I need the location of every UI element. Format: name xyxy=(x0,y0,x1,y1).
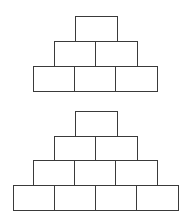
pyramid-box xyxy=(115,160,158,186)
pyramid-box xyxy=(75,111,118,137)
pyramid-box xyxy=(33,160,76,186)
pyramid-box xyxy=(54,41,97,67)
pyramid-box xyxy=(33,66,76,92)
pyramid-box xyxy=(75,16,118,42)
pyramid-box xyxy=(74,160,117,186)
pyramid-box xyxy=(54,185,97,211)
pyramid-box xyxy=(95,136,138,162)
pyramid-box xyxy=(54,136,97,162)
pyramid-box xyxy=(136,185,179,211)
pyramid-box xyxy=(95,185,138,211)
pyramid-box xyxy=(115,66,158,92)
pyramid-box xyxy=(95,41,138,67)
pyramid-box xyxy=(74,66,117,92)
pyramid-box xyxy=(13,185,56,211)
